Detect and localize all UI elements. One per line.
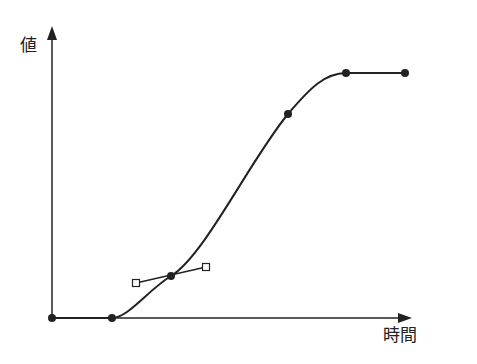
keyframe-point[interactable] bbox=[284, 110, 292, 118]
keyframe-graph: 値 時間 bbox=[0, 0, 477, 364]
keyframe-point[interactable] bbox=[108, 314, 116, 322]
x-axis-arrow-icon bbox=[398, 313, 412, 323]
keyframes bbox=[48, 69, 409, 322]
tangent-handle-in[interactable] bbox=[133, 280, 140, 287]
tangent-handle-out[interactable] bbox=[203, 264, 210, 271]
y-axis-arrow-icon bbox=[47, 26, 57, 40]
animation-curve bbox=[52, 73, 405, 318]
keyframe-point[interactable] bbox=[401, 69, 409, 77]
y-axis bbox=[47, 26, 57, 318]
keyframe-point[interactable] bbox=[48, 314, 56, 322]
keyframe-point[interactable] bbox=[167, 272, 175, 280]
keyframe-point[interactable] bbox=[342, 69, 350, 77]
x-axis-label: 時間 bbox=[383, 325, 417, 345]
y-axis-label: 値 bbox=[20, 35, 37, 55]
